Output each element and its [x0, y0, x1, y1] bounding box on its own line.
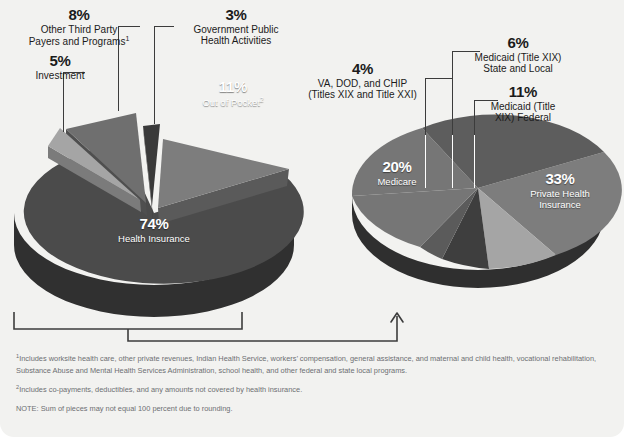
- callout-va-dod-chip-pct: 4%: [300, 60, 425, 78]
- callout-investment: 5% Investment: [0, 52, 120, 81]
- callout-other-third-party-line1: Other Third Party: [4, 24, 154, 36]
- leader-line-medicaid-federal-white: [474, 135, 475, 188]
- footnote-2-text: Includes co-payments, deductibles, and a…: [19, 386, 302, 395]
- callout-medicaid-federal-line1: Medicaid (Title: [462, 101, 584, 113]
- right-pie-chart: [352, 115, 622, 288]
- callout-medicaid-federal-line2: XIX) Federal: [462, 112, 584, 124]
- callout-va-dod-chip: 4% VA, DOD, and CHIP (Titles XIX and Tit…: [300, 60, 425, 101]
- callout-other-third-party-line2: Payers and Programs1: [4, 35, 154, 48]
- footnote-1-text: Includes worksite health care, other pri…: [16, 354, 596, 374]
- callout-government-public-health: 3% Government Public Health Activities: [168, 6, 304, 47]
- leader-line-va-dod-chip-white: [425, 135, 426, 188]
- callout-other-third-party: 8% Other Third Party Payers and Programs…: [4, 6, 154, 49]
- callout-medicaid-state-local-line2: State and Local: [442, 63, 594, 75]
- callout-investment-pct: 5%: [0, 52, 120, 70]
- footnote-note: NOTE: Sum of pieces may not equal 100 pe…: [16, 403, 612, 414]
- footnotes-block: 1Includes worksite health care, other pr…: [16, 352, 612, 422]
- leader-line-government-public-health-v: [154, 26, 155, 124]
- callout-va-dod-chip-line2: (Titles XIX and Title XXI): [300, 89, 425, 101]
- callout-other-third-party-pct: 8%: [4, 6, 154, 24]
- callout-other-third-party-line2-text: Payers and Programs: [29, 37, 126, 48]
- left-pie-chart: [14, 113, 304, 317]
- leader-line-medicaid-state-local-white: [452, 135, 453, 188]
- footnote-2: 2Includes co-payments, deductibles, and …: [16, 383, 612, 396]
- callout-government-public-health-pct: 3%: [168, 6, 304, 24]
- pie-connector-bracket: [14, 312, 403, 341]
- leader-line-va-dod-chip-h: [425, 78, 453, 79]
- footnote-1: 1Includes worksite health care, other pr…: [16, 352, 612, 376]
- callout-government-public-health-line1: Government Public: [168, 24, 304, 36]
- callout-va-dod-chip-line1: VA, DOD, and CHIP: [300, 78, 425, 90]
- callout-medicaid-federal-pct: 11%: [462, 83, 584, 101]
- footnote-marker-1: 1: [125, 35, 129, 42]
- callout-medicaid-state-local-line1: Medicaid (Title XIX): [442, 52, 594, 64]
- callout-government-public-health-line2: Health Activities: [168, 35, 304, 47]
- infographic-page: 8% Other Third Party Payers and Programs…: [0, 0, 624, 437]
- callout-medicaid-federal: 11% Medicaid (Title XIX) Federal: [462, 83, 584, 124]
- callout-medicaid-state-local-pct: 6%: [442, 34, 594, 52]
- callout-investment-line1: Investment: [0, 70, 120, 82]
- callout-medicaid-state-local: 6% Medicaid (Title XIX) State and Local: [442, 34, 594, 75]
